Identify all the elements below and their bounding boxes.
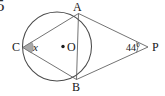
point-label-c: C: [12, 41, 20, 53]
question-number-label: 5: [0, 0, 5, 14]
chord-ab: [77, 14, 79, 80]
point-label-p: P: [152, 41, 159, 53]
unknown-angle-label-x: x: [33, 42, 38, 53]
angle-marker-c: [23, 42, 33, 53]
point-label-b: B: [72, 81, 80, 93]
center-label-o: O: [67, 41, 76, 53]
center-point-dot: [61, 45, 64, 48]
circle-diagram-canvas: [0, 0, 165, 96]
geometry-figure-screenshot: 5 A B C O P x 44°: [0, 0, 165, 96]
given-angle-label-44: 44°: [126, 43, 140, 53]
point-label-a: A: [73, 1, 82, 13]
